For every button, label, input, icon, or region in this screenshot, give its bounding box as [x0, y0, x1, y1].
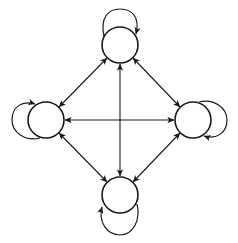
state-diagram [0, 0, 238, 243]
edge-top-right [133, 58, 180, 107]
edge-top-left [59, 58, 107, 107]
edge-right-bottom [133, 133, 180, 182]
node-bottom [102, 177, 138, 213]
edge-left-bottom [59, 133, 107, 182]
node-left [28, 102, 64, 138]
edges [59, 58, 180, 182]
node-right [175, 102, 211, 138]
node-top [102, 27, 138, 63]
